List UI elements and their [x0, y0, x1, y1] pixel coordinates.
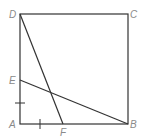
square-abcd: [20, 14, 128, 124]
label-d: D: [9, 9, 16, 20]
label-a: A: [8, 119, 16, 130]
label-c: C: [130, 9, 138, 20]
label-e: E: [9, 75, 16, 86]
segment-be: [20, 80, 128, 124]
label-b: B: [130, 119, 137, 130]
label-f: F: [60, 127, 67, 137]
geometry-diagram: D C E A B F: [0, 0, 141, 137]
segment-df: [20, 14, 63, 124]
